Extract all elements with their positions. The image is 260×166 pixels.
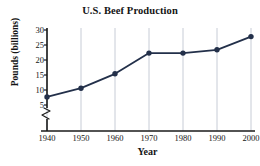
- data-point-1950: [78, 86, 83, 91]
- data-point-1990: [214, 47, 219, 52]
- data-point-1970: [146, 50, 151, 55]
- grid-lines: [47, 28, 251, 131]
- plot-area: [0, 0, 260, 166]
- data-point-1940: [44, 94, 49, 99]
- axis-break-icon: [42, 108, 50, 119]
- chart-figure: U.S. Beef Production Pounds (billions) Y…: [0, 0, 260, 166]
- data-point-2000: [248, 34, 253, 39]
- data-point-1980: [180, 50, 185, 55]
- data-point-1960: [112, 71, 117, 76]
